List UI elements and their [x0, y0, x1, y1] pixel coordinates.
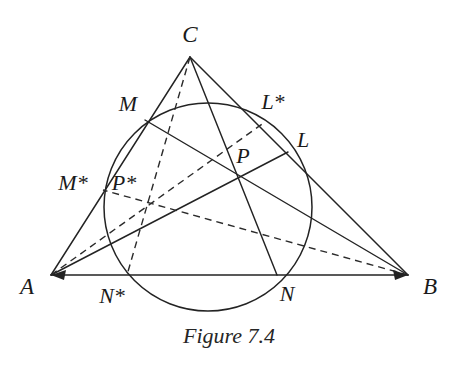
vertex-label-C: C: [182, 23, 197, 46]
point-label-M-star: M*: [58, 172, 87, 194]
cevian-B-to-Mstar: [103, 190, 408, 275]
circumscribed-circle: [104, 103, 312, 311]
point-label-P: P: [236, 145, 249, 167]
point-label-N: N: [280, 283, 295, 305]
point-label-P-star: P*: [112, 172, 136, 194]
arrow-at-B: [393, 270, 408, 280]
vertex-label-B: B: [423, 275, 437, 298]
figure-caption: Figure 7.4: [0, 323, 458, 349]
point-label-L-star: L*: [261, 91, 284, 113]
cevian-C-to-Nstar: [127, 57, 190, 275]
point-label-M: M: [119, 93, 137, 115]
cevian-A-to-Lstar: [51, 122, 265, 275]
side-AC: [51, 57, 190, 275]
vertex-label-A: A: [20, 275, 34, 298]
figure-7-4: A B C M L N P M* L* N* P* Figure 7.4: [0, 0, 458, 368]
point-label-L: L: [297, 129, 309, 151]
point-label-N-star: N*: [99, 285, 125, 307]
